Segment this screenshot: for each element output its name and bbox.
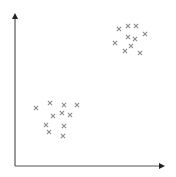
axes bbox=[0, 0, 176, 177]
x-marker-icon bbox=[59, 110, 65, 116]
scatter-plot bbox=[0, 0, 176, 177]
y-axis-arrowhead-icon bbox=[12, 13, 18, 19]
x-marker-icon bbox=[61, 123, 67, 129]
x-axis-arrowhead-icon bbox=[159, 163, 165, 169]
x-marker-icon bbox=[43, 122, 49, 128]
x-marker-icon bbox=[60, 133, 66, 139]
x-marker-icon bbox=[47, 100, 53, 106]
x-marker-icon bbox=[125, 23, 131, 29]
x-marker-icon bbox=[46, 129, 52, 135]
x-marker-icon bbox=[116, 26, 122, 32]
x-marker-icon bbox=[74, 102, 80, 108]
x-marker-icon bbox=[33, 105, 39, 111]
x-marker-icon bbox=[142, 31, 148, 37]
x-marker-icon bbox=[61, 102, 67, 108]
x-marker-icon bbox=[132, 36, 138, 42]
x-marker-icon bbox=[133, 23, 139, 29]
x-marker-icon bbox=[122, 48, 128, 54]
x-marker-icon bbox=[137, 50, 143, 56]
x-marker-icon bbox=[128, 43, 134, 49]
x-marker-icon bbox=[125, 34, 131, 40]
x-marker-icon bbox=[112, 40, 118, 46]
x-marker-icon bbox=[67, 112, 73, 118]
x-marker-icon bbox=[50, 113, 56, 119]
